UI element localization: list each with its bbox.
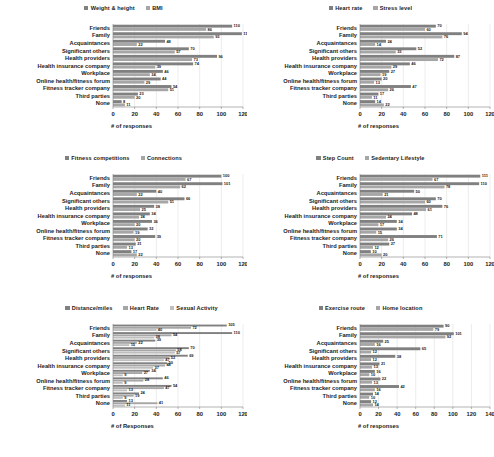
bar	[113, 193, 137, 196]
category-label: Fitness tracker company	[43, 385, 111, 391]
bar-value-label: 29	[146, 80, 151, 85]
bar	[360, 43, 375, 46]
category-label: Significant others	[309, 198, 357, 204]
bar	[360, 212, 412, 215]
bar-value-label: 51	[170, 87, 175, 92]
bar	[360, 250, 371, 253]
bar	[113, 359, 164, 361]
category-label: Workplace	[328, 220, 357, 226]
bar	[360, 182, 479, 185]
x-tick-label: 20	[375, 411, 381, 417]
bar-value-label: 27	[144, 370, 149, 375]
bar-value-label: 24	[387, 39, 392, 44]
bar-value-label: 12	[373, 357, 378, 362]
x-tick-label: 60	[175, 261, 181, 267]
bar-value-label: 46	[164, 375, 169, 380]
category-label: Family	[92, 182, 111, 188]
bar-value-label: 24	[387, 214, 392, 219]
x-tick-label: 40	[394, 411, 400, 417]
category-label: Family	[92, 32, 111, 38]
bar	[113, 178, 186, 181]
bar	[113, 231, 134, 234]
bar	[360, 253, 382, 256]
bar	[113, 374, 123, 376]
category-label: Third parties	[323, 393, 357, 399]
bar	[113, 334, 172, 336]
category-label: Health insurance company	[38, 63, 111, 69]
bar-value-label: 79	[435, 327, 440, 332]
category-label: None	[96, 400, 110, 406]
bar	[360, 325, 444, 328]
bar	[113, 51, 175, 54]
bar	[360, 246, 373, 249]
category-label: Acquaintances	[317, 40, 357, 46]
category-label: None	[343, 250, 357, 256]
bar-value-label: 61	[427, 207, 432, 212]
chart-panel-4: Distance/milesHeart RateSexual Activity …	[0, 300, 247, 452]
bar	[360, 62, 410, 65]
x-tick-label: 80	[196, 111, 202, 117]
category-label: Health insurance company	[285, 63, 358, 69]
x-tick-label: 100	[216, 111, 226, 117]
category-label: Online health/fitness forum	[36, 228, 110, 234]
chart-xlabel-0: # of responses	[111, 123, 152, 129]
bar-value-label: 39	[157, 64, 162, 69]
bar-value-label: 60	[426, 27, 431, 32]
bar-value-label: 110	[481, 181, 488, 186]
bar	[113, 66, 155, 69]
bar	[113, 362, 167, 364]
bar-value-label: 65	[422, 346, 427, 351]
bar	[360, 335, 445, 338]
x-tick-label: 0	[111, 411, 114, 417]
bar-value-label: 96	[218, 54, 223, 59]
category-label: Friends	[89, 25, 110, 31]
category-label: Online health/fitness forum	[36, 378, 110, 384]
bar-value-label: 34	[151, 211, 156, 216]
bar-value-label: 111	[482, 173, 489, 178]
bar	[360, 355, 395, 358]
bar	[113, 175, 221, 178]
bar-value-label: 48	[166, 39, 171, 44]
x-tick-label: 0	[358, 111, 361, 117]
bar	[113, 93, 138, 96]
bar	[113, 55, 217, 58]
bar	[113, 78, 161, 81]
bar	[113, 405, 125, 407]
category-label: Health insurance company	[285, 213, 358, 219]
bar-value-label: 25	[385, 339, 390, 344]
x-tick-label: 20	[378, 111, 384, 117]
category-label: Third parties	[76, 393, 110, 399]
bar	[360, 358, 371, 361]
bar	[360, 28, 425, 31]
category-label: Fitness tracker company	[43, 235, 111, 241]
category-label: Significant others	[62, 348, 110, 354]
bar	[360, 58, 438, 61]
bar	[360, 66, 391, 69]
x-tick-label: 0	[111, 261, 114, 267]
category-label: Family	[92, 332, 111, 338]
bar	[360, 185, 445, 188]
x-tick-label: 20	[131, 411, 137, 417]
bar-value-label: 19	[135, 230, 140, 235]
bar-value-label: 39	[157, 337, 162, 342]
bar-value-label: 76	[444, 204, 449, 209]
bar-value-label: 19	[135, 393, 140, 398]
bar-value-label: 22	[138, 340, 143, 345]
bar-value-label: 20	[136, 95, 141, 100]
category-label: Health providers	[65, 55, 110, 61]
bar-value-label: 38	[156, 204, 161, 209]
x-tick-label: 80	[443, 261, 449, 267]
category-label: Workplace	[81, 370, 110, 376]
bar-value-label: 22	[138, 252, 143, 257]
bar	[113, 62, 193, 65]
x-tick-label: 60	[175, 111, 181, 117]
bar-value-label: 40	[158, 189, 163, 194]
chart-panel-0: Weight & heightBMI Friends11086Family119…	[0, 0, 247, 152]
bar-value-label: 87	[456, 54, 461, 59]
bar-value-label: 33	[397, 49, 402, 54]
bar	[113, 372, 142, 374]
bar-value-label: 90	[445, 323, 450, 328]
bar	[113, 397, 123, 399]
bar	[113, 28, 206, 31]
bar	[360, 175, 480, 178]
